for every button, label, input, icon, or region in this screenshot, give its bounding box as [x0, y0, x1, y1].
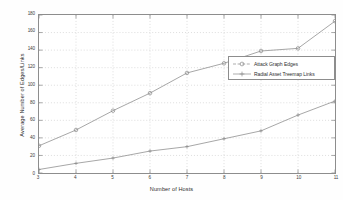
x-axis-tick-label: 5: [107, 176, 119, 181]
x-axis-tick-label: 10: [293, 176, 305, 181]
x-axis-tick-label: 4: [69, 176, 81, 181]
legend-label: Attack Graph Edges: [254, 62, 298, 67]
legend-label: Radial Asset Treemap Links: [254, 72, 315, 77]
legend-marker-plus-icon: [232, 70, 252, 78]
x-axis-tick-label: 9: [256, 176, 268, 181]
chart-figure: 020406080100120140160180 34567891011 Num…: [0, 0, 343, 200]
x-axis-tick-label: 7: [181, 176, 193, 181]
x-axis-tick-label: 3: [32, 176, 44, 181]
x-axis-tick-label: 6: [144, 176, 156, 181]
y-axis-title: Average Number of Edges/Links: [19, 15, 25, 175]
x-axis-tick-label: 11: [330, 176, 342, 181]
legend-item-attack-graph-edges: Attack Graph Edges: [232, 59, 331, 69]
legend-marker-circle-icon: [232, 60, 252, 68]
plot-area: [38, 14, 336, 174]
x-axis-title: Number of Hosts: [0, 186, 343, 192]
legend-item-radial-asset-treemap-links: Radial Asset Treemap Links: [232, 69, 331, 79]
plot-canvas: [39, 15, 335, 173]
chart-legend: Attack Graph Edges Radial Asset Treemap …: [228, 56, 335, 80]
x-axis-tick-label: 8: [218, 176, 230, 181]
